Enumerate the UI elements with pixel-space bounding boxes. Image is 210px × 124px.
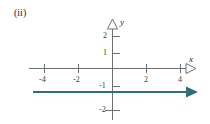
y-tick-label-neg2: -2 (99, 106, 106, 114)
x-axis-arrow-icon (186, 64, 196, 74)
x-axis-label: x (189, 55, 193, 64)
x-tick-label-2: 2 (144, 76, 148, 84)
y-tick-label-neg1: -1 (99, 82, 106, 90)
x-tick-label-4: 4 (178, 76, 182, 84)
x-tick-label-neg2: -2 (73, 76, 80, 84)
x-tick-label-neg4: -4 (39, 76, 46, 84)
y-axis-arrow-icon (108, 19, 118, 29)
figure-container: (ii) -4 -2 2 4 2 1 -1 -2 y x (0, 0, 210, 124)
y-tick-label-1: 1 (103, 49, 107, 57)
data-line-arrow-icon (186, 87, 198, 98)
y-tick-label-2: 2 (103, 32, 107, 40)
y-axis-label: y (120, 18, 124, 27)
